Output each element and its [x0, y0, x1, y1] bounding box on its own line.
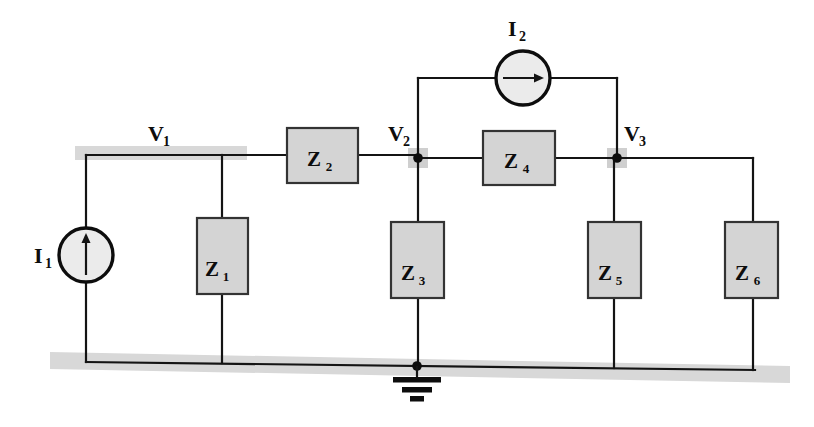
impedance-z5-box[interactable] — [588, 222, 641, 298]
ground-bar-1 — [393, 377, 441, 383]
impedance-z3[interactable]: Z 3 — [391, 222, 444, 298]
impedance-z2-box[interactable] — [287, 128, 358, 183]
node-label-v1: V 1 — [148, 121, 170, 149]
impedance-z4[interactable]: Z 4 — [483, 131, 555, 185]
node-label-v2: V 2 — [388, 121, 410, 149]
current-source-i1[interactable]: I 1 — [34, 228, 113, 282]
node-dot-v3 — [612, 153, 622, 163]
current-source-i2-label: I — [508, 16, 517, 41]
impedance-z6-subscript: 6 — [754, 273, 761, 288]
impedance-z5-subscript: 5 — [616, 273, 623, 288]
circuit-diagram-canvas: Z 1 Z 2 Z 3 Z 4 Z 5 — [0, 0, 814, 427]
impedance-z1-subscript: 1 — [223, 269, 230, 284]
node-label-v1-subscript: 1 — [163, 134, 170, 149]
node-dot-v2 — [413, 153, 423, 163]
node-label-v3-text: V — [624, 121, 640, 146]
impedance-z3-subscript: 3 — [419, 273, 426, 288]
impedance-z2-subscript: 2 — [326, 159, 333, 174]
impedance-z1[interactable]: Z 1 — [197, 218, 248, 294]
ground-bar-3 — [410, 396, 424, 402]
impedance-z6-label: Z — [735, 261, 749, 285]
current-source-i2[interactable]: I 2 — [496, 16, 550, 105]
impedance-layer: Z 1 Z 2 Z 3 Z 4 Z 5 — [197, 128, 778, 298]
impedance-z2-label: Z — [307, 147, 321, 171]
node-label-v2-subscript: 2 — [403, 134, 410, 149]
node-label-layer: V 1 V 2 V 3 — [148, 121, 646, 149]
current-source-i2-subscript: 2 — [519, 29, 526, 44]
impedance-z5-label: Z — [598, 261, 612, 285]
impedance-z4-label: Z — [504, 149, 518, 173]
impedance-z2[interactable]: Z 2 — [287, 128, 358, 183]
node-label-v3: V 3 — [624, 121, 646, 149]
circuit-schematic-svg: Z 1 Z 2 Z 3 Z 4 Z 5 — [0, 0, 814, 427]
node-label-v2-text: V — [388, 121, 404, 146]
current-source-i1-subscript: 1 — [45, 256, 52, 271]
impedance-z3-box[interactable] — [391, 222, 444, 298]
impedance-z5[interactable]: Z 5 — [588, 222, 641, 298]
impedance-z4-subscript: 4 — [523, 161, 530, 176]
impedance-z4-box[interactable] — [483, 131, 555, 185]
impedance-z6[interactable]: Z 6 — [725, 222, 778, 298]
impedance-z1-label: Z — [205, 257, 219, 281]
impedance-z3-label: Z — [401, 261, 415, 285]
node-label-v1-text: V — [148, 121, 164, 146]
node-label-v3-subscript: 3 — [639, 134, 646, 149]
current-source-i1-label: I — [34, 243, 43, 268]
ground-bar-2 — [402, 387, 432, 393]
impedance-z6-box[interactable] — [725, 222, 778, 298]
